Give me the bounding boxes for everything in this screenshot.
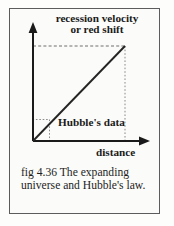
x-axis-arrowhead-icon — [139, 136, 150, 145]
figure-container: recession velocity or red shift distance… — [0, 0, 174, 226]
y-axis-label-line2: or red shift — [43, 24, 151, 35]
x-axis-label: distance — [96, 147, 135, 158]
y-axis-arrowhead-icon — [29, 22, 38, 33]
figure-border: recession velocity or red shift distance… — [9, 8, 160, 214]
hubble-data-label: Hubble's data — [58, 117, 125, 128]
y-axis-label: recession velocity or red shift — [43, 13, 151, 35]
figure-caption: fig 4.36 The expanding universe and Hubb… — [21, 166, 153, 192]
